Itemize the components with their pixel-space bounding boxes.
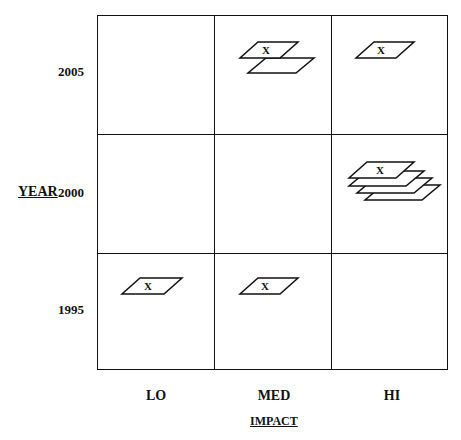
marker-stack-2005-hi: X: [356, 42, 414, 58]
marker-stack-1995-med: X: [240, 278, 298, 294]
marker-stack-2000-hi: X: [349, 162, 440, 200]
x-tick-hi: HI: [352, 388, 432, 404]
x-mark: X: [376, 164, 384, 176]
markers-layer: X X X X X: [0, 0, 461, 440]
x-mark: X: [261, 280, 269, 292]
x-tick-lo: LO: [116, 388, 196, 404]
marker-stack-1995-lo: X: [122, 278, 182, 294]
x-mark: X: [377, 44, 385, 56]
x-mark: X: [262, 44, 270, 56]
x-axis-title: IMPACT: [250, 414, 298, 429]
x-tick-med: MED: [234, 388, 314, 404]
x-mark: X: [144, 280, 152, 292]
marker-stack-2005-med: X: [240, 42, 314, 73]
